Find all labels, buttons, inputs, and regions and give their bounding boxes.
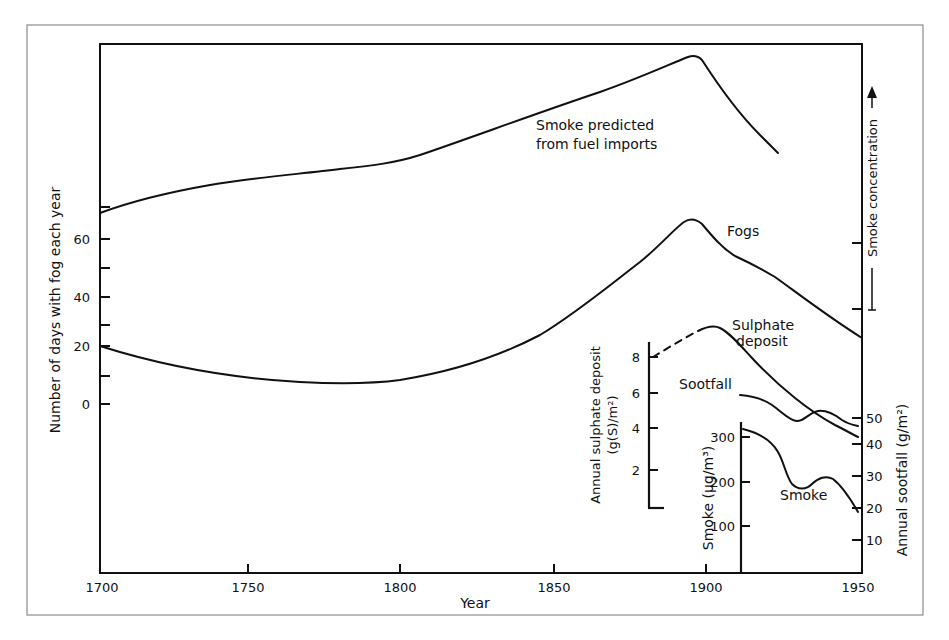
year-axis-tick-labels: 1700 1750 1800 1850 1900 1950 [85, 580, 874, 595]
chart-figure: 60 40 20 0 Number of days with fog each … [0, 0, 949, 640]
smoke-concentration-axis-ticks [852, 243, 862, 309]
svg-text:0: 0 [82, 397, 90, 412]
svg-text:Smoke predicted: Smoke predicted [536, 117, 654, 133]
year-axis-ticks [248, 564, 706, 573]
svg-text:6: 6 [632, 386, 640, 401]
series-smoke-predicted [100, 56, 778, 213]
sootfall-axis: 50 40 30 20 10 [852, 411, 883, 548]
svg-text:300: 300 [710, 430, 735, 445]
svg-text:from fuel imports: from fuel imports [536, 136, 657, 152]
svg-text:1700: 1700 [85, 580, 118, 595]
svg-text:30: 30 [866, 469, 883, 484]
svg-text:20: 20 [73, 339, 90, 354]
label-sulphate-deposit: Sulphate deposit [732, 317, 794, 349]
smoke-inset-axis-title: Smoke (µg/m³) [700, 446, 716, 550]
svg-text:1750: 1750 [231, 580, 264, 595]
svg-text:deposit: deposit [736, 333, 788, 349]
fog-axis-tick-labels: 60 40 20 0 [73, 232, 90, 412]
svg-text:10: 10 [866, 533, 883, 548]
svg-text:Smoke concentration: Smoke concentration [865, 119, 880, 257]
label-sootfall: Sootfall [679, 376, 732, 392]
svg-text:40: 40 [73, 290, 90, 305]
svg-text:50: 50 [866, 411, 883, 426]
svg-text:Sulphate: Sulphate [732, 317, 794, 333]
svg-text:4: 4 [632, 421, 640, 436]
year-axis-title: Year [459, 595, 490, 611]
smoke-inset-axis: 300 200 100 [710, 422, 750, 573]
svg-text:1950: 1950 [841, 580, 874, 595]
fog-axis-title: Number of days with fog each year [47, 186, 63, 433]
svg-text:20: 20 [866, 501, 883, 516]
svg-text:60: 60 [73, 232, 90, 247]
series-fogs [100, 220, 862, 384]
svg-text:8: 8 [632, 350, 640, 365]
sootfall-axis-title: Annual sootfall (g/m²) [894, 404, 910, 557]
svg-text:Annual sulphate deposit: Annual sulphate deposit [588, 346, 603, 504]
svg-text:1900: 1900 [689, 580, 722, 595]
label-fogs: Fogs [727, 223, 759, 239]
sulphate-axis-title: Annual sulphate deposit (g(S)/m²) [588, 346, 620, 504]
label-smoke-predicted: Smoke predicted from fuel imports [536, 117, 657, 152]
arrow-up-icon [867, 86, 877, 98]
smoke-concentration-label: Smoke concentration [865, 86, 880, 310]
series-sootfall [740, 395, 858, 426]
svg-text:40: 40 [866, 437, 883, 452]
svg-text:1850: 1850 [537, 580, 570, 595]
svg-text:(g(S)/m²): (g(S)/m²) [605, 395, 620, 454]
sulphate-axis: 8 6 4 2 [632, 342, 664, 508]
series-sulphate-deposit-estimated [653, 331, 698, 357]
label-smoke: Smoke [780, 487, 827, 503]
svg-text:1800: 1800 [383, 580, 416, 595]
fog-axis-ticks [100, 207, 110, 404]
svg-text:2: 2 [632, 463, 640, 478]
